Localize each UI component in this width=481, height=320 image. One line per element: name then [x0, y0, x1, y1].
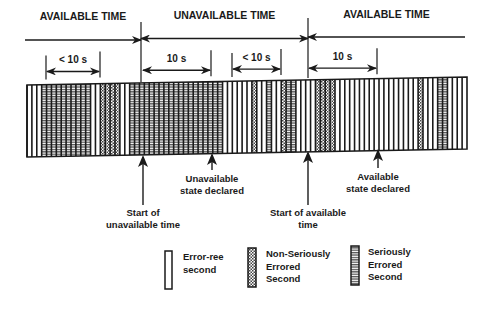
duration-label: 10 s [333, 51, 353, 62]
annotation-label: Start of [126, 207, 160, 218]
legend-label: Error-ree [183, 251, 224, 262]
annotation-start-unavailable: Start ofunavailable time [106, 155, 180, 230]
legend-label: Errored [266, 261, 301, 272]
legend-label: Seriously [368, 246, 411, 257]
event-annotations: Start ofunavailable timeUnavailablestate… [106, 149, 410, 230]
legend-swatch [351, 246, 359, 285]
annotation-available-declared: Availablestate declared [346, 149, 410, 194]
annotation-label: Start of available [270, 207, 346, 218]
duration-marker-0: < 10 s [46, 51, 100, 79]
availability-diagram: AVAILABLE TIMEUNAVAILABLE TIMEAVAILABLE … [0, 0, 481, 320]
duration-markers: < 10 s10 s< 10 s10 s [46, 48, 377, 79]
legend-item-S: SeriouslyErroredSecond [351, 246, 411, 285]
legend-swatch [165, 251, 172, 289]
legend-label: Second [368, 271, 403, 282]
duration-marker-1: 10 s [143, 50, 211, 76]
legend-swatch [248, 248, 256, 287]
duration-label: < 10 s [242, 52, 271, 63]
legend-label: Errored [368, 259, 403, 270]
duration-label: < 10 s [59, 54, 88, 65]
legend-item-N: Non-SeriouslyErroredSecond [248, 248, 331, 287]
annotation-label: unavailable time [106, 219, 180, 230]
annotation-label: time [298, 219, 318, 230]
period-label: AVAILABLE TIME [40, 10, 127, 22]
annotation-label: Available [357, 171, 398, 182]
period-label: AVAILABLE TIME [343, 8, 430, 20]
period-2: AVAILABLE TIME [308, 8, 465, 37]
legend-label: Non-Seriously [266, 248, 331, 259]
annotation-unavailable-declared: Unavailablestate declared [180, 153, 244, 196]
duration-label: 10 s [167, 53, 187, 64]
annotation-label: Unavailable [186, 173, 239, 184]
annotation-label: state declared [346, 183, 410, 194]
annotation-start-available: Start of availabletime [270, 151, 346, 230]
legend-item-E: Error-reesecond [165, 251, 224, 289]
seconds-strip [27, 77, 467, 157]
annotation-label: state declared [180, 185, 244, 196]
duration-marker-3: 10 s [309, 48, 377, 74]
period-1: UNAVAILABLE TIME [141, 9, 308, 39]
legend: Error-reesecondNon-SeriouslyErroredSecon… [165, 246, 411, 289]
duration-marker-2: < 10 s [232, 49, 281, 77]
period-0: AVAILABLE TIME [25, 10, 141, 40]
legend-label: second [183, 264, 216, 275]
period-label: UNAVAILABLE TIME [174, 9, 276, 21]
legend-label: Second [266, 273, 301, 284]
